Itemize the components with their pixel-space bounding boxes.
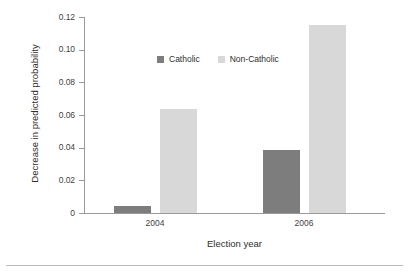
y-tick-mark bbox=[79, 213, 84, 214]
legend-label: Catholic bbox=[169, 54, 200, 64]
x-tick-label-2006: 2006 bbox=[269, 218, 339, 228]
y-tick-label: 0.06 bbox=[15, 111, 75, 120]
y-tick-label: 0 bbox=[15, 209, 75, 218]
y-tick-label: 0.10 bbox=[15, 45, 75, 54]
footer-divider bbox=[6, 265, 403, 266]
legend-item-catholic: Catholic bbox=[157, 54, 200, 64]
bar-2006-non-catholic bbox=[309, 25, 346, 213]
x-tick-label-2004: 2004 bbox=[120, 218, 190, 228]
x-axis-line bbox=[84, 213, 385, 214]
bar-2006-catholic bbox=[263, 150, 300, 213]
y-tick-label: 0.08 bbox=[15, 78, 75, 87]
bar-2004-non-catholic bbox=[160, 109, 197, 213]
chart-legend: CatholicNon-Catholic bbox=[157, 54, 279, 64]
legend-swatch-icon bbox=[218, 56, 225, 63]
y-tick-label: 0.02 bbox=[15, 176, 75, 185]
y-tick-label: 0.12 bbox=[15, 13, 75, 22]
legend-label: Non-Catholic bbox=[230, 54, 279, 64]
bar-2004-catholic bbox=[114, 206, 151, 213]
legend-swatch-icon bbox=[157, 56, 164, 63]
y-tick-label: 0.04 bbox=[15, 143, 75, 152]
plot-area bbox=[84, 17, 384, 213]
legend-item-non-catholic: Non-Catholic bbox=[218, 54, 279, 64]
x-axis-title: Election year bbox=[84, 238, 385, 249]
bar-chart-figure: Decrease in predicted probability 00.020… bbox=[0, 0, 409, 278]
